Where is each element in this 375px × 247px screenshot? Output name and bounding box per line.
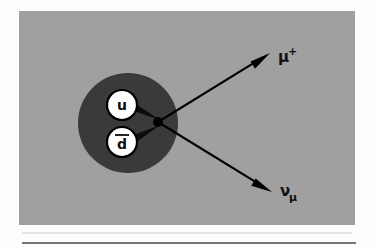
up-quark: u <box>107 90 137 120</box>
interaction-vertex <box>153 117 163 127</box>
diagram-canvas: u d μ + ν μ <box>0 0 375 247</box>
hadron-blob <box>78 73 178 173</box>
figure-root: u d μ + ν μ <box>0 0 375 247</box>
muon-neutrino-subscript: μ <box>289 191 297 204</box>
anti-down-quark-symbol: d <box>117 136 127 152</box>
anti-down-quark: d <box>107 127 137 157</box>
muon-plus-superscript: + <box>288 45 297 58</box>
up-quark-symbol: u <box>117 97 127 113</box>
image-panel <box>19 11 355 225</box>
